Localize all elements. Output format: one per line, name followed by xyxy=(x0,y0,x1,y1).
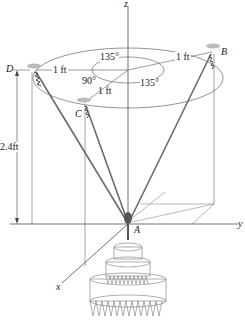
spring-B xyxy=(209,54,214,69)
chandelier-statics-diagram: z y x D B C A 1 ft 1 ft 1 ft 135° 135° 9… xyxy=(0,0,245,324)
height-dimension-label: 2.4ft xyxy=(0,142,19,152)
cable-AD xyxy=(36,72,126,220)
angle-right-label: 135° xyxy=(140,78,159,88)
x-axis xyxy=(62,224,128,283)
z-axis-label: z xyxy=(124,0,128,9)
angle-top-label: 135° xyxy=(100,52,119,62)
chandelier-icon xyxy=(90,243,166,316)
radius-B xyxy=(128,52,212,70)
y-axis-label: y xyxy=(238,219,242,229)
angle-left-label: 90° xyxy=(82,76,96,86)
point-D-label: D xyxy=(6,64,13,74)
point-B-label: B xyxy=(221,47,227,57)
radius-B-label: 1 ft xyxy=(175,52,191,62)
point-C-label: C xyxy=(75,109,82,119)
diagram-canvas xyxy=(0,0,245,324)
radius-C-label: 1 ft xyxy=(98,86,112,96)
x-axis-label: x xyxy=(56,282,60,292)
point-A-label: A xyxy=(134,225,140,235)
radius-D-label: 1 ft xyxy=(52,65,68,75)
